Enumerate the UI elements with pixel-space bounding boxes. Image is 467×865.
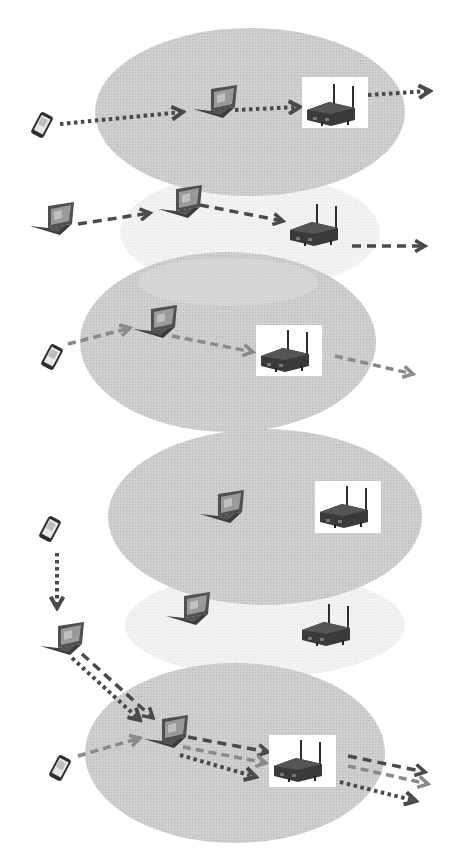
network-diagram bbox=[0, 0, 467, 865]
smartphone-icon bbox=[30, 111, 54, 139]
laptop-icon bbox=[30, 202, 74, 235]
panel-1 bbox=[30, 28, 430, 196]
panel-3 bbox=[40, 252, 413, 432]
coverage-area bbox=[85, 663, 385, 843]
smartphone-icon bbox=[40, 343, 64, 371]
smartphone-icon bbox=[48, 754, 72, 782]
panel-6 bbox=[48, 654, 428, 843]
laptop-icon bbox=[40, 622, 84, 655]
smartphone-icon bbox=[38, 515, 62, 543]
panel-4 bbox=[38, 429, 422, 605]
overlap-highlight bbox=[138, 258, 318, 306]
